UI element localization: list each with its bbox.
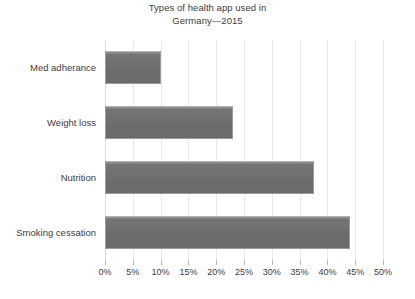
x-tick-label: 20% <box>207 267 225 278</box>
x-tick <box>272 260 273 265</box>
x-tick <box>188 260 189 265</box>
category-label: Weight loss <box>47 117 96 128</box>
category-label: Smoking cessation <box>16 227 96 238</box>
bar-chart: Types of health app used in Germany—2015… <box>0 0 415 299</box>
x-tick-label: 0% <box>98 267 111 278</box>
x-tick-label: 25% <box>235 267 253 278</box>
x-tick-label: 30% <box>263 267 281 278</box>
x-tick <box>161 260 162 265</box>
bar-row <box>105 106 383 139</box>
x-tick-label: 40% <box>318 267 336 278</box>
category-label: Nutrition <box>61 172 96 183</box>
x-tick <box>327 260 328 265</box>
bar-row <box>105 51 383 84</box>
x-tick-label: 15% <box>179 267 197 278</box>
chart-title-line-2: Germany—2015 <box>0 15 415 28</box>
x-tick-label: 5% <box>126 267 139 278</box>
x-tick <box>216 260 217 265</box>
x-tick <box>133 260 134 265</box>
category-axis-labels: Med adheranceWeight lossNutritionSmoking… <box>0 40 100 260</box>
bar-row <box>105 216 383 249</box>
bar <box>105 106 233 139</box>
chart-title: Types of health app used in Germany—2015 <box>0 2 415 27</box>
x-axis: 0%5%10%15%20%25%30%35%40%45%50% <box>105 260 383 290</box>
x-tick <box>355 260 356 265</box>
bar <box>105 51 161 84</box>
category-label: Med adherance <box>30 62 96 73</box>
x-tick-label: 45% <box>346 267 364 278</box>
x-tick <box>300 260 301 265</box>
x-tick-label: 50% <box>374 267 392 278</box>
gridline <box>383 40 384 260</box>
x-tick <box>105 260 106 265</box>
chart-title-line-1: Types of health app used in <box>0 2 415 15</box>
bar-series <box>105 40 383 260</box>
x-tick-label: 10% <box>152 267 170 278</box>
bar <box>105 161 314 194</box>
x-tick-label: 35% <box>291 267 309 278</box>
x-tick <box>383 260 384 265</box>
bar <box>105 216 350 249</box>
plot-area <box>105 40 383 260</box>
bar-row <box>105 161 383 194</box>
x-tick <box>244 260 245 265</box>
